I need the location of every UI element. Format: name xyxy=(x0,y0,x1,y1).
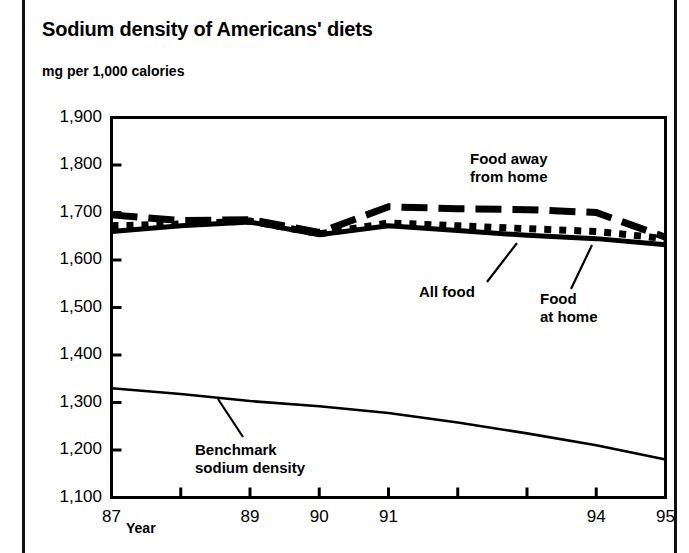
series-line xyxy=(112,222,666,245)
x-axis-title: Year xyxy=(126,520,156,536)
y-axis-tick-label: 1,700 xyxy=(30,202,102,222)
x-axis-tick-label: 94 xyxy=(576,507,616,527)
annotation-leader-line xyxy=(218,399,243,437)
chart-page: Sodium density of Americans' diets mg pe… xyxy=(0,0,689,553)
y-axis-tick-label: 1,400 xyxy=(30,344,102,364)
plot-area xyxy=(0,0,689,553)
y-axis-tick-label: 1,800 xyxy=(30,154,102,174)
y-axis-tick-label: 1,200 xyxy=(30,439,102,459)
y-axis-tick-label: 1,500 xyxy=(30,297,102,317)
y-axis-tick-label: 1,900 xyxy=(30,107,102,127)
x-axis-tick-label: 91 xyxy=(369,507,409,527)
annotation-benchmark-line2: sodium density xyxy=(195,459,305,477)
x-axis-tick-label: 90 xyxy=(299,507,339,527)
series-line xyxy=(112,207,666,237)
annotation-food-away-line1: Food away xyxy=(470,150,548,168)
annotation-food-at-home-line1: Food xyxy=(540,290,598,308)
y-axis-tick-label: 1,100 xyxy=(30,487,102,507)
annotation-food-away-line2: from home xyxy=(470,168,548,186)
y-axis-tick-label: 1,600 xyxy=(30,249,102,269)
data-series xyxy=(112,207,666,460)
y-axis-tick-label: 1,300 xyxy=(30,392,102,412)
annotation-food-at-home: Food at home xyxy=(540,290,598,327)
annotation-all-food: All food xyxy=(419,283,475,301)
annotation-food-at-home-line2: at home xyxy=(540,308,598,326)
annotation-leader-line xyxy=(487,243,517,282)
annotation-benchmark-sodium-density: Benchmark sodium density xyxy=(195,441,305,478)
annotation-food-away-from-home: Food away from home xyxy=(470,150,548,187)
x-axis-tick-label: 89 xyxy=(230,507,270,527)
annotation-leader-line xyxy=(571,245,592,289)
x-axis-tick-label: 95 xyxy=(646,507,686,527)
annotation-leader-lines xyxy=(218,243,592,437)
chart-svg xyxy=(0,0,689,553)
annotation-benchmark-line1: Benchmark xyxy=(195,441,305,459)
